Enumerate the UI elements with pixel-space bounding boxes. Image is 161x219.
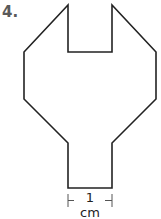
wrench-outline [24, 5, 156, 188]
wrench-figure [0, 0, 161, 219]
dimension-label: 1 cm [75, 190, 105, 219]
